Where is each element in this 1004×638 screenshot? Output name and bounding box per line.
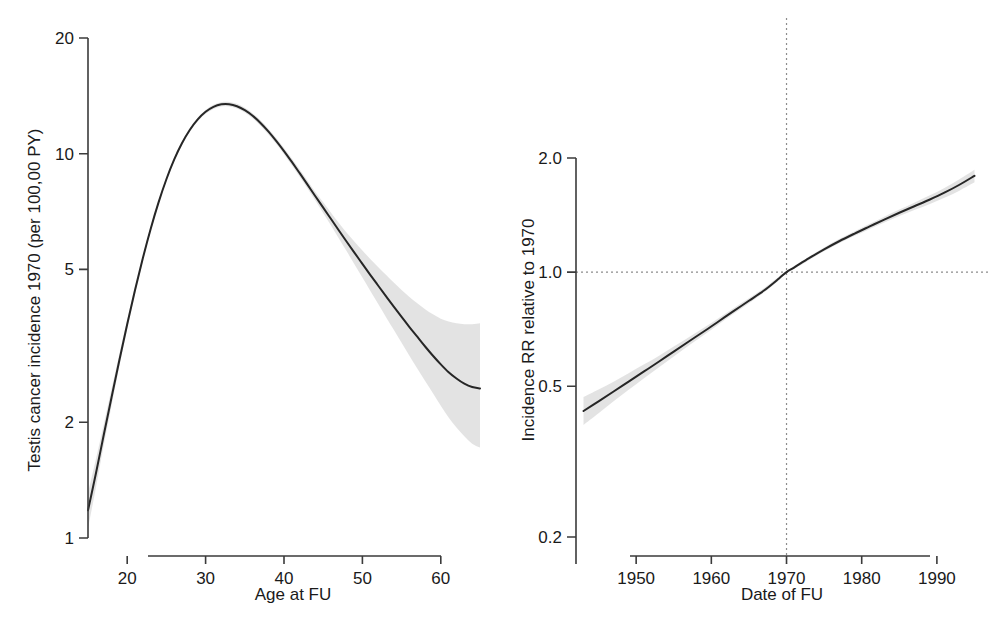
confidence-band-right bbox=[584, 170, 975, 425]
y-axis-title-left: Testis cancer incidence 1970 (per 100,00… bbox=[25, 128, 44, 471]
y-tick-label: 2.0 bbox=[538, 149, 562, 168]
y-tick-label: 1 bbox=[65, 529, 74, 548]
confidence-band-left bbox=[88, 102, 480, 528]
y-tick-label: 1.0 bbox=[538, 263, 562, 282]
x-axis-title-left: Age at FU bbox=[255, 585, 332, 604]
x-tick-label: 1990 bbox=[918, 569, 956, 588]
x-tick-label: 60 bbox=[431, 569, 450, 588]
x-tick-label: 1950 bbox=[617, 569, 655, 588]
y-tick-label: 20 bbox=[55, 29, 74, 48]
y-tick-label: 5 bbox=[65, 260, 74, 279]
panel-incidence-by-age: 1251020 2030405060 Age at FU Testis canc… bbox=[0, 0, 502, 638]
y-tick-labels-right: 0.20.51.02.0 bbox=[538, 149, 562, 547]
plot-area-left: 1251020 2030405060 Age at FU Testis canc… bbox=[0, 0, 502, 638]
y-tick-label: 10 bbox=[55, 145, 74, 164]
plot-area-right: 0.20.51.02.0 19501960197019801990 Date o… bbox=[502, 0, 1004, 638]
x-axis-title-right: Date of FU bbox=[741, 585, 823, 604]
y-tick-labels-left: 1251020 bbox=[55, 29, 74, 548]
y-tick-label: 0.2 bbox=[538, 528, 562, 547]
panel-rate-ratio-by-date: 0.20.51.02.0 19501960197019801990 Date o… bbox=[502, 0, 1004, 638]
y-tick-label: 2 bbox=[65, 413, 74, 432]
x-tick-label: 30 bbox=[196, 569, 215, 588]
x-tick-label: 20 bbox=[118, 569, 137, 588]
reference-lines-right bbox=[576, 18, 990, 564]
y-axis-title-right: Incidence RR relative to 1970 bbox=[519, 218, 538, 441]
x-tick-label: 50 bbox=[353, 569, 372, 588]
x-tick-label: 1960 bbox=[692, 569, 730, 588]
x-tick-label: 1980 bbox=[843, 569, 881, 588]
figure-two-panel-testis-cancer: 1251020 2030405060 Age at FU Testis canc… bbox=[0, 0, 1004, 638]
y-tick-label: 0.5 bbox=[538, 377, 562, 396]
